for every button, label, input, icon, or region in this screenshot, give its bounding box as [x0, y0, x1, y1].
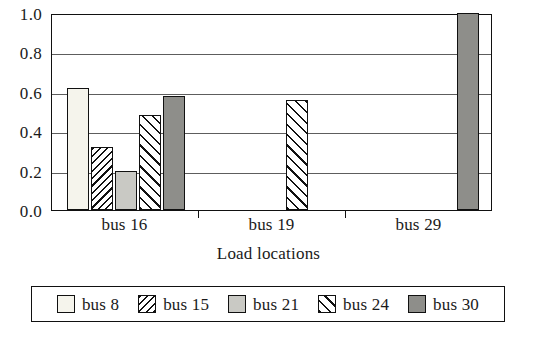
- legend-entry: bus 15: [138, 295, 209, 313]
- bar: [91, 147, 113, 210]
- gridline: [52, 94, 491, 95]
- x-axis-group-label: bus 19: [248, 216, 294, 233]
- legend-swatch-icon: [408, 295, 426, 313]
- x-axis-group-label: bus 29: [395, 216, 441, 233]
- legend-entry: bus 24: [318, 295, 389, 313]
- y-axis-tick-label: 0.8: [20, 45, 42, 62]
- plot-area: [51, 14, 492, 211]
- x-axis-group-label: bus 16: [101, 216, 147, 233]
- legend-swatch-icon: [228, 295, 246, 313]
- bar: [67, 88, 89, 210]
- bar: [163, 96, 185, 210]
- y-axis-tick-label: 1.0: [20, 6, 42, 23]
- plot-wrapper: 0.00.20.40.60.81.0 bus 16bus 19bus 29 Lo…: [0, 0, 537, 270]
- y-axis-tick-label: 0.2: [20, 163, 42, 180]
- y-axis-tick-labels: 0.00.20.40.60.81.0: [2, 0, 46, 270]
- legend-swatch-icon: [318, 295, 336, 313]
- gridline: [52, 133, 491, 134]
- legend-label: bus 21: [253, 296, 299, 313]
- legend-label: bus 24: [343, 296, 389, 313]
- legend-entry: bus 30: [408, 295, 479, 313]
- y-axis-tick-label: 0.0: [20, 203, 42, 220]
- y-axis-tick-label: 0.4: [20, 124, 42, 141]
- x-axis-tick: [345, 211, 346, 218]
- gridline: [52, 54, 491, 55]
- x-axis-tick: [198, 211, 199, 218]
- legend-entry: bus 8: [57, 295, 119, 313]
- bar: [139, 115, 161, 210]
- y-axis-tick-label: 0.6: [20, 84, 42, 101]
- x-axis-title: Load locations: [0, 245, 537, 262]
- legend-swatch-icon: [57, 295, 75, 313]
- legend-label: bus 30: [433, 296, 479, 313]
- bar: [115, 171, 137, 210]
- legend-label: bus 15: [163, 296, 209, 313]
- bar: [457, 13, 479, 210]
- bar-chart-figure: 0.00.20.40.60.81.0 bus 16bus 19bus 29 Lo…: [0, 0, 537, 338]
- chart-legend: bus 8bus 15bus 21bus 24bus 30: [31, 286, 505, 322]
- legend-entry: bus 21: [228, 295, 299, 313]
- bar: [286, 100, 308, 210]
- legend-swatch-icon: [138, 295, 156, 313]
- legend-label: bus 8: [82, 296, 119, 313]
